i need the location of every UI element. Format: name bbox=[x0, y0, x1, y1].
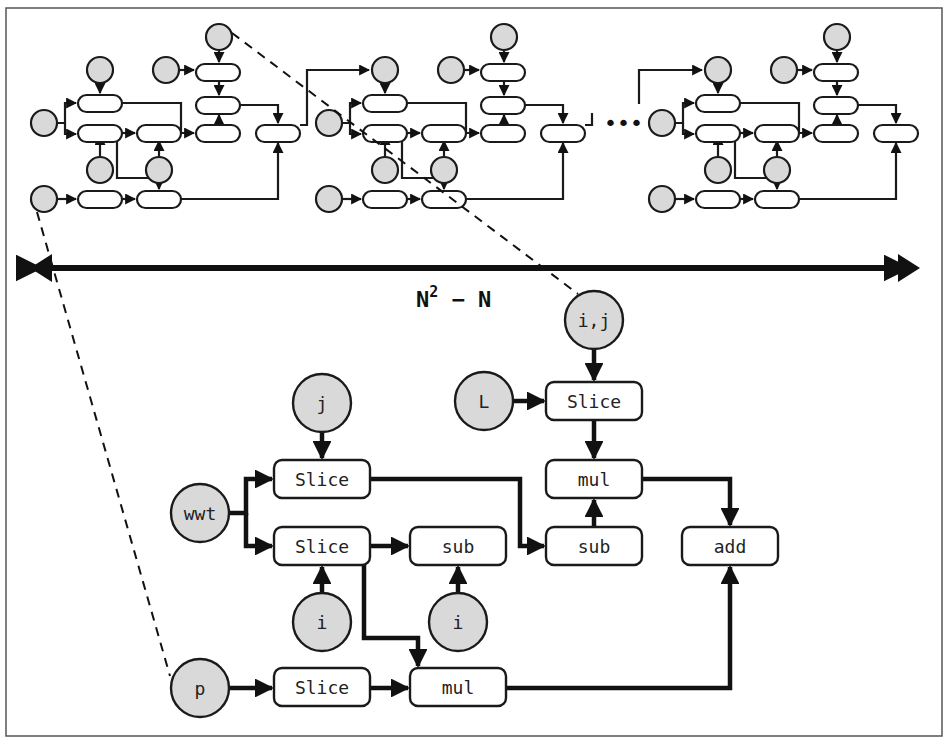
mini-variable-node bbox=[771, 57, 797, 83]
mini-op-node bbox=[814, 125, 858, 142]
mini-variable-node bbox=[153, 57, 179, 83]
mini-op-node bbox=[755, 125, 799, 142]
mini-op-node bbox=[755, 191, 799, 208]
graph-edge bbox=[364, 565, 418, 666]
mini-variable-node bbox=[206, 24, 232, 50]
mini-op-node bbox=[814, 97, 858, 114]
mini-op-node bbox=[696, 125, 740, 142]
mini-variable-node bbox=[491, 24, 517, 50]
graph-edge bbox=[642, 479, 730, 525]
op-label: Slice bbox=[295, 677, 349, 698]
computation-graph-figure: ••• N2 − N SlicemulSliceSlicesubsubaddSl… bbox=[0, 0, 948, 742]
mini-op-node bbox=[137, 125, 181, 142]
mini-variable-node bbox=[316, 186, 342, 212]
mini-op-node bbox=[481, 125, 525, 142]
mini-edge bbox=[240, 105, 278, 123]
mini-variable-node bbox=[649, 110, 675, 136]
ellipsis: ••• bbox=[604, 111, 643, 136]
mini-variable-node bbox=[764, 157, 790, 183]
op-label: mul bbox=[442, 677, 475, 698]
span-label-base: N bbox=[416, 287, 429, 312]
repeated-mini-graphs bbox=[31, 24, 918, 212]
mini-op-node bbox=[363, 125, 407, 142]
mini-graph-3 bbox=[649, 24, 918, 212]
mini-op-node bbox=[696, 191, 740, 208]
op-node-slice_i: Slice bbox=[274, 527, 370, 565]
op-label: Slice bbox=[567, 391, 621, 412]
mini-op-node bbox=[481, 64, 525, 81]
op-label: sub bbox=[442, 536, 475, 557]
mini-op-node bbox=[78, 191, 122, 208]
op-node-sub_mid: sub bbox=[410, 527, 506, 565]
mini-op-node bbox=[481, 97, 525, 114]
span-label: N2 − N bbox=[416, 283, 491, 312]
mini-edge bbox=[65, 123, 76, 134]
mini-edge bbox=[466, 143, 563, 199]
op-node-slice_j: Slice bbox=[274, 460, 370, 498]
op-label: sub bbox=[578, 536, 611, 557]
variable-label: wwt bbox=[184, 503, 217, 524]
graph-edge bbox=[506, 567, 730, 688]
op-label: Slice bbox=[295, 536, 349, 557]
variable-node-var_ij: i,j bbox=[565, 291, 623, 349]
mini-variable-node bbox=[87, 157, 113, 183]
op-label: mul bbox=[578, 469, 611, 490]
mini-variable-node bbox=[31, 110, 57, 136]
op-node-mul_bottom: mul bbox=[410, 668, 506, 706]
span-label-rest: − N bbox=[438, 287, 491, 312]
mini-op-node bbox=[363, 95, 407, 112]
op-node-slice_top: Slice bbox=[546, 382, 642, 420]
op-label: Slice bbox=[295, 469, 349, 490]
mini-graph-2 bbox=[316, 24, 585, 212]
mini-op-node bbox=[137, 191, 181, 208]
mini-edge bbox=[799, 143, 896, 199]
mini-edge bbox=[343, 103, 361, 123]
variable-label: i bbox=[317, 612, 328, 633]
graph-edge bbox=[246, 513, 272, 546]
mini-graph-1 bbox=[31, 24, 300, 212]
variable-node-var_j: j bbox=[293, 374, 351, 432]
mini-edge bbox=[350, 123, 361, 134]
mini-variable-node bbox=[372, 57, 398, 83]
variable-node-var_i1: i bbox=[293, 593, 351, 651]
mini-edge bbox=[525, 105, 563, 123]
mini-op-node bbox=[696, 95, 740, 112]
mini-edge bbox=[858, 105, 896, 123]
mini-op-node bbox=[78, 95, 122, 112]
detail-graph-nodes: SlicemulSliceSlicesubsubaddSlicemuli,jLj… bbox=[171, 291, 778, 717]
zoom-line-right bbox=[232, 33, 578, 294]
mini-op-node bbox=[196, 64, 240, 81]
mini-variable-node bbox=[431, 157, 457, 183]
op-node-sub_right: sub bbox=[546, 527, 642, 565]
mini-op-node bbox=[196, 97, 240, 114]
mini-op-node bbox=[874, 125, 918, 142]
variable-node-var_i2: i bbox=[429, 593, 487, 651]
mini-edge bbox=[676, 103, 694, 123]
mini-connector-ellipsis-3 bbox=[639, 70, 702, 104]
mini-edge bbox=[683, 123, 694, 134]
mini-edge bbox=[181, 143, 278, 199]
variable-label: j bbox=[317, 393, 328, 414]
mini-op-node bbox=[422, 191, 466, 208]
graph-edge bbox=[229, 479, 272, 513]
op-node-slice_p: Slice bbox=[274, 668, 370, 706]
mini-variable-node bbox=[649, 186, 675, 212]
mini-op-node bbox=[422, 125, 466, 142]
variable-node-var_wwt: wwt bbox=[171, 484, 229, 542]
mini-op-node bbox=[363, 191, 407, 208]
op-label: add bbox=[714, 536, 747, 557]
variable-label: L bbox=[479, 391, 490, 412]
mini-variable-node bbox=[705, 157, 731, 183]
mini-op-node bbox=[541, 125, 585, 142]
op-node-add: add bbox=[682, 527, 778, 565]
mini-variable-node bbox=[438, 57, 464, 83]
mini-variable-node bbox=[146, 157, 172, 183]
mini-op-node bbox=[196, 125, 240, 142]
zoom-line-left bbox=[37, 212, 170, 676]
mini-variable-node bbox=[31, 186, 57, 212]
mini-variable-node bbox=[705, 57, 731, 83]
variable-label: i,j bbox=[578, 310, 611, 331]
variable-node-var_p: p bbox=[171, 659, 229, 717]
op-node-mul_right: mul bbox=[546, 460, 642, 498]
mini-edge bbox=[58, 103, 76, 123]
